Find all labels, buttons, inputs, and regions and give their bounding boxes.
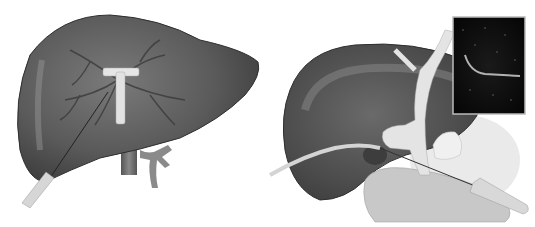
right-liver-svg: [265, 0, 535, 227]
liver-body: [18, 15, 259, 182]
ultrasound-inset: [453, 17, 525, 114]
t-tube-stem: [116, 72, 125, 124]
left-liver-illustration: [0, 0, 270, 227]
right-liver-illustration: [265, 0, 535, 227]
left-liver-svg: [0, 0, 270, 227]
portal-vein-branch: [140, 145, 172, 188]
